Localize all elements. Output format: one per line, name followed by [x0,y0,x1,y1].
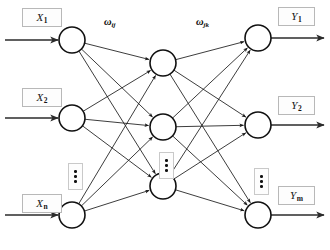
input-layer-ellipsis-icon [68,163,83,190]
label-box-y1-subscript: 1 [298,15,302,24]
ellipsis-dot [165,164,168,167]
ellipsis-dot [74,170,77,173]
connection-hidden-3-to-output-1 [170,50,250,175]
ellipsis-dot [74,180,77,183]
ellipsis-dot [260,185,263,188]
connection-input-1-to-hidden-2 [81,49,152,117]
label-box-y1-text: Y1 [291,11,301,22]
connection-hidden-3-to-output-2 [174,133,246,179]
connections-input-to-hidden [79,43,156,211]
weight-hidden-output-symbol: ωjk [196,16,209,27]
ellipsis-dot [260,175,263,178]
neuron-node-input-2 [59,105,85,131]
label-box-x2: X2 [22,88,62,107]
weight-hidden-output-subscript: jk [204,21,209,29]
ellipsis-dot [74,175,77,178]
label-box-xn-text: Xn [36,198,47,209]
label-box-y1: Y1 [278,7,315,26]
neuron-node-input-1 [59,27,85,53]
label-box-x1-subscript: 1 [44,16,48,25]
weight-input-hidden-symbol: ωij [104,16,115,27]
neural-network-diagram: X1X2XnY1Y2Ym ωijωjk [0,0,330,250]
neuron-node-input-n [59,202,85,228]
connection-input-n-to-hidden-1 [79,75,156,203]
vertical-ellipsis-icon [74,170,77,182]
ellipsis-dot [165,169,168,172]
connection-input-1-to-hidden-3 [79,51,155,174]
label-box-x1: X1 [22,8,62,27]
label-box-y2: Y2 [278,96,315,115]
label-box-x2-subscript: 2 [44,96,48,105]
label-box-ym-text: Ym [290,190,303,201]
hidden-layer-ellipsis-icon [159,152,174,179]
connection-input-n-to-hidden-2 [81,137,152,206]
ellipsis-dot [165,159,168,162]
label-box-y2-text: Y2 [291,100,301,111]
neuron-node-hidden-1 [150,50,176,76]
vertical-ellipsis-icon [260,175,263,187]
connections-hidden-to-output [170,42,250,211]
label-box-ym: Ym [278,186,315,205]
connection-hidden-2-to-output-m [173,136,248,205]
label-box-x2-text: X2 [37,92,48,103]
connection-input-1-to-hidden-1 [85,43,149,59]
connection-input-2-to-hidden-2 [85,119,149,125]
weight-input-hidden-subscript: ij [112,21,116,29]
ellipsis-dot [260,180,263,183]
neuron-node-output-2 [245,112,271,138]
connection-hidden-1-to-output-1 [176,42,244,60]
label-box-xn: Xn [22,194,62,213]
neuron-node-output-1 [245,25,271,51]
vertical-ellipsis-icon [165,159,168,171]
neuron-node-hidden-2 [150,114,176,140]
neuron-node-output-m [245,202,271,228]
connection-hidden-2-to-output-1 [172,48,247,118]
output-layer-ellipsis-icon [254,168,269,195]
label-box-ym-subscript: m [297,194,303,203]
connection-hidden-2-to-output-2 [176,125,244,126]
label-box-x1-text: X1 [37,12,48,23]
label-box-xn-subscript: n [44,202,48,211]
weight-input-hidden: ωij [104,17,115,28]
weight-hidden-output: ωjk [196,17,209,28]
connection-hidden-1-to-output-2 [174,70,246,117]
label-box-y2-subscript: 2 [298,104,302,113]
